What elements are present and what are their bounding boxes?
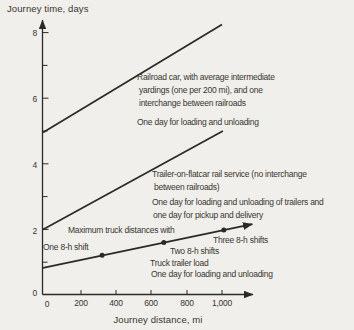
x-tick-label-0: 0 xyxy=(45,298,49,310)
x-tick-label-1000: 1,000 xyxy=(212,297,232,309)
y-tick-label-4: 4 xyxy=(21,159,37,171)
x-axis-ticks xyxy=(81,290,222,295)
x-tick-label-600: 600 xyxy=(144,297,157,309)
trailer-annotation-line-1: Trailer-on-flatcar rail service (no inte… xyxy=(152,168,307,180)
x-tick-label-400: 400 xyxy=(109,297,122,309)
truck-trailer-line-marker-dot xyxy=(221,228,226,233)
y-tick-label-8: 8 xyxy=(21,27,37,39)
truck-trailer-line-marker-dot xyxy=(161,240,166,245)
x-axis-title: Journey distance, mi xyxy=(113,314,202,326)
railroad-annotation-line-1: Railroad car, with average intermediate xyxy=(137,71,275,83)
trailer-annotation-line-2: between railroads) xyxy=(154,181,219,193)
railroad-annotation-note: One day for loading and unloading xyxy=(137,116,259,128)
truck-shift-3-label: Three 8-h shifts xyxy=(213,234,268,246)
truck-shift-1-label: One 8-h shift xyxy=(43,241,88,253)
journey-time-chart: Journey time, days Journey distance, mi … xyxy=(0,0,354,330)
truck-trailer-line-marker-dot xyxy=(100,253,105,258)
railroad-annotation-line-3: interchange between railroads xyxy=(139,97,246,109)
y-tick-label-0: 0 xyxy=(21,287,37,299)
y-tick-label-6: 6 xyxy=(21,93,37,105)
railroad-annotation-line-2: yardings (one per 200 mi), and one xyxy=(139,84,263,96)
x-tick-label-200: 200 xyxy=(74,297,87,309)
trailer-annotation-note-1: One day for loading and unloading of tra… xyxy=(152,196,324,208)
truck-heading: Maximum truck distances with xyxy=(68,224,174,236)
y-tick-label-2: 2 xyxy=(21,225,37,237)
truck-shift-2-label: Two 8-h shifts xyxy=(170,245,219,257)
trailer-annotation-note-2: one day for pickup and delivery xyxy=(153,209,263,221)
y-axis-title: Journey time, days xyxy=(7,3,89,15)
x-tick-label-800: 800 xyxy=(180,297,193,309)
truck-note: One day for loading and unloading xyxy=(151,268,273,280)
plot-canvas xyxy=(0,0,354,330)
